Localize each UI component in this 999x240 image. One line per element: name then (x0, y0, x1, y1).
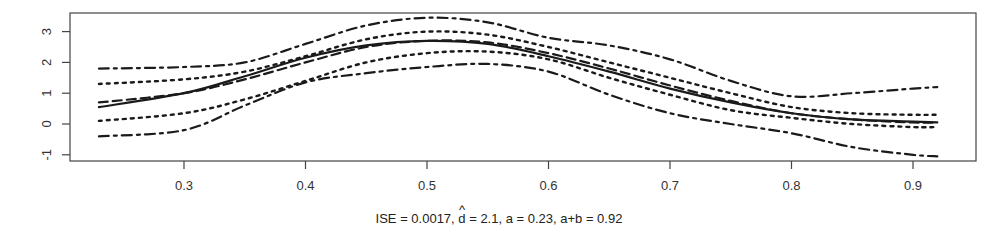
x-tick-label: 0.3 (175, 178, 193, 193)
y-tick-label: -1 (39, 149, 54, 161)
x-axis: 0.30.40.50.60.70.80.9 (175, 161, 922, 193)
x-tick-label: 0.9 (904, 178, 922, 193)
x-tick-label: 0.6 (539, 178, 557, 193)
x-tick-label: 0.7 (661, 178, 679, 193)
y-tick-label: 2 (39, 59, 54, 66)
y-tick-label: 1 (39, 90, 54, 97)
y-axis: -10123 (39, 28, 71, 161)
hat-accent: ^ (459, 202, 466, 217)
x-tick-label: 0.4 (296, 178, 314, 193)
x-axis-label-suffix: = 2.1, a = 0.23, a+b = 0.92 (466, 211, 623, 226)
chart: -10123 0.30.40.50.60.70.80.9 ISE = 0.001… (0, 0, 999, 240)
x-axis-label: ISE = 0.0017, d = 2.1, a = 0.23, a+b = 0… (376, 211, 623, 226)
x-axis-label-prefix: ISE = 0.0017, (376, 211, 459, 226)
x-tick-label: 0.8 (782, 178, 800, 193)
y-tick-label: 3 (39, 28, 54, 35)
series-layer (99, 18, 937, 157)
x-tick-label: 0.5 (418, 178, 436, 193)
y-tick-label: 0 (39, 120, 54, 127)
series-upper-inner-band (99, 31, 937, 114)
